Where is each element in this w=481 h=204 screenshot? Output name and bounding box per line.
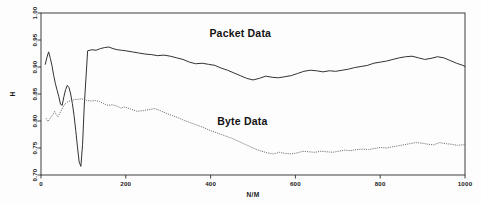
chart-figure: 1.000.950.900.850.800.750.70 02004006008… xyxy=(0,0,481,204)
y-tick-label: 0.95 xyxy=(31,33,38,46)
line-chart: 1.000.950.900.850.800.750.70 02004006008… xyxy=(0,0,481,204)
y-tick-label: 0.75 xyxy=(31,141,38,154)
y-tick-label: 0.80 xyxy=(31,114,38,127)
x-tick-label: 0 xyxy=(39,180,43,187)
y-tick-label: 0.85 xyxy=(31,87,38,100)
x-tick-label: 600 xyxy=(290,180,301,187)
x-axis-title: N/M xyxy=(247,191,260,198)
y-tick-label: 1.00 xyxy=(31,6,38,19)
x-tick-label: 1000 xyxy=(458,180,473,187)
x-tick-label: 200 xyxy=(120,180,131,187)
y-axis-title: H xyxy=(9,91,16,96)
y-tick-label: 0.70 xyxy=(31,168,38,181)
series-label-byte-data: Byte Data xyxy=(217,115,267,127)
x-tick-label: 400 xyxy=(205,180,216,187)
series-label-packet-data: Packet Data xyxy=(209,27,271,39)
y-tick-label: 0.90 xyxy=(31,60,38,73)
x-tick-label: 800 xyxy=(375,180,386,187)
